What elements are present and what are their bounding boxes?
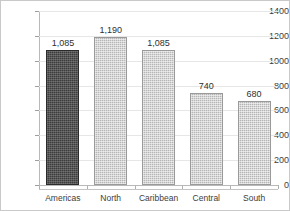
bar-slot: 740 bbox=[190, 11, 223, 185]
bar-value-label: 1,085 bbox=[52, 38, 75, 48]
gridline bbox=[39, 185, 278, 186]
bar-value-label: 1,190 bbox=[99, 25, 122, 35]
bar-chart: 0200400600800100012001400 1,0851,1901,08… bbox=[0, 0, 290, 211]
bar-slot: 1,085 bbox=[142, 11, 175, 185]
bar[interactable] bbox=[238, 101, 271, 186]
category-axis-line bbox=[39, 189, 278, 190]
category-label: North bbox=[100, 193, 121, 203]
category-tick-mark bbox=[278, 185, 279, 189]
bar[interactable] bbox=[142, 50, 175, 185]
bar-slot: 680 bbox=[238, 11, 271, 185]
bar-slot: 1,190 bbox=[94, 11, 127, 185]
bar[interactable] bbox=[46, 50, 79, 185]
plot-area: 1,0851,1901,085740680 bbox=[39, 11, 278, 185]
bar-value-label: 680 bbox=[247, 89, 262, 99]
category-label: Caribbean bbox=[139, 193, 178, 203]
category-label: Central bbox=[193, 193, 220, 203]
category-label: Americas bbox=[45, 193, 80, 203]
bar[interactable] bbox=[94, 37, 127, 185]
bar-value-label: 1,085 bbox=[147, 38, 170, 48]
bar-slot: 1,085 bbox=[46, 11, 79, 185]
bar[interactable] bbox=[190, 93, 223, 185]
category-label: South bbox=[243, 193, 265, 203]
bar-value-label: 740 bbox=[199, 81, 214, 91]
